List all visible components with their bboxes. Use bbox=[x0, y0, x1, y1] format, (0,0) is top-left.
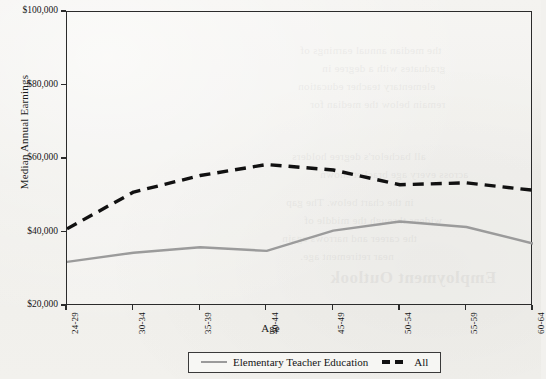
x-tick-mark bbox=[398, 305, 399, 310]
x-tick-mark bbox=[199, 305, 200, 310]
solid-line-swatch-icon bbox=[201, 361, 227, 364]
x-tick-mark bbox=[132, 305, 133, 310]
x-tick-mark bbox=[465, 305, 466, 310]
dashed-line-swatch-icon bbox=[382, 360, 408, 363]
legend-item-elementary-teacher-education[interactable]: Elementary Teacher Education bbox=[201, 356, 368, 368]
x-tick-mark bbox=[265, 305, 266, 310]
x-axis-title: Age bbox=[0, 322, 541, 334]
x-tick-mark bbox=[65, 305, 66, 310]
legend-label: All bbox=[414, 356, 428, 368]
chart-legend: Elementary Teacher Education All bbox=[188, 352, 441, 373]
legend-label: Elementary Teacher Education bbox=[233, 356, 368, 368]
x-tick-mark bbox=[332, 305, 333, 310]
legend-item-all[interactable]: All bbox=[382, 356, 428, 368]
x-tick-mark bbox=[531, 305, 532, 310]
